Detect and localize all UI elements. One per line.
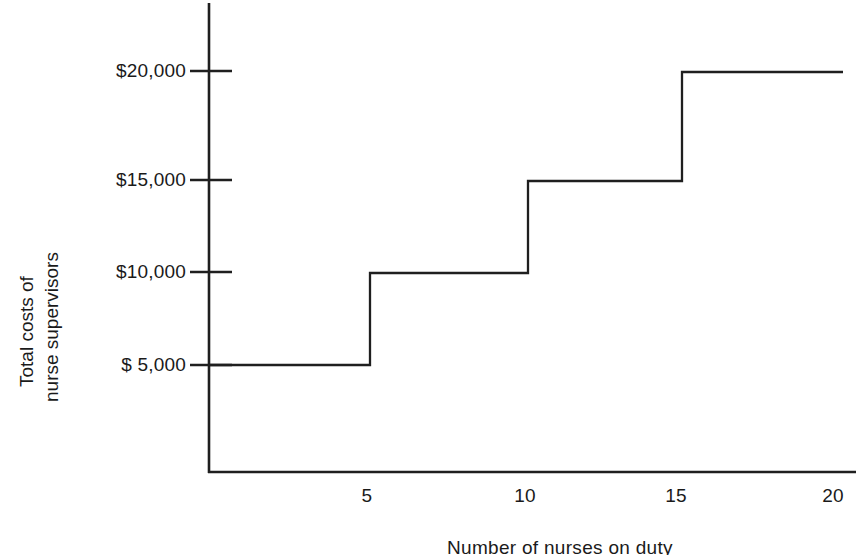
y-axis-title-line-1: Total costs of	[17, 276, 36, 387]
x-tick-label-20: 20	[803, 486, 862, 505]
y-axis-title: Total costs of nurse supervisors	[0, 0, 90, 555]
x-axis-title: Number of nurses on duty	[447, 538, 673, 555]
y-axis-title-line-2: nurse supervisors	[42, 252, 61, 402]
x-tick-label-10: 10	[495, 486, 555, 505]
step-cost-series	[209, 72, 843, 365]
chart-figure: $20,000 $15,000 $10,000 $ 5,000 5 10 15 …	[0, 0, 862, 555]
x-tick-label-15: 15	[646, 486, 706, 505]
x-tick-label-5: 5	[337, 486, 397, 505]
